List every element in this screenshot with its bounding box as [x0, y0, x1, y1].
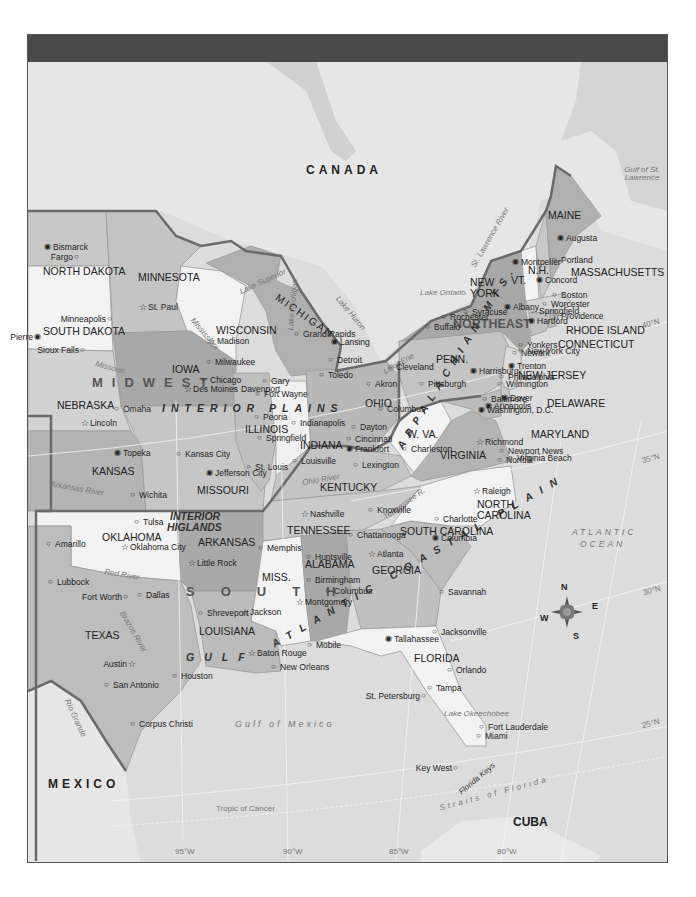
city-marker-city: ○: [48, 578, 53, 586]
state-label-missouri: MISSOURI: [197, 485, 249, 496]
city-label: Raleigh: [482, 487, 511, 496]
city-label: Lincoln: [90, 419, 117, 428]
state-label-florida: FLORIDA: [414, 653, 460, 664]
city-marker-city: ○: [351, 423, 356, 431]
city-marker-city: ○: [306, 553, 311, 561]
city-label: Jacksonville: [441, 628, 487, 637]
city-label: Cleveland: [396, 363, 434, 372]
city-marker-city: ○: [479, 723, 484, 731]
city-marker-city: ○: [134, 518, 139, 526]
city-label: Detroit: [337, 356, 362, 365]
city-marker-city: ○: [328, 356, 333, 364]
state-label-rhode-island: RHODE ISLAND: [566, 325, 645, 336]
city-label: Tallahassee: [394, 635, 439, 644]
water-gulf-of-mexico: Gulf of Mexico: [235, 720, 335, 729]
city-label: Yonkers: [527, 341, 557, 350]
city-label: Wichita: [139, 491, 167, 500]
city-label: Albany: [513, 303, 539, 312]
city-marker-city: ○: [542, 300, 547, 308]
city-marker-city: ○: [104, 681, 109, 689]
water-atlantic-1: ATLANTIC: [572, 528, 636, 537]
city-marker-city: ○: [232, 385, 237, 393]
city-label: Charlotte: [443, 515, 478, 524]
city-marker-city: ○: [198, 609, 203, 617]
coord-lon-95: 95°W: [175, 848, 195, 856]
city-marker-capital: ◉: [331, 338, 338, 346]
region-interior-highlands-1: INTERIOR: [170, 511, 220, 522]
state-label-indiana: INDIANA: [300, 440, 343, 451]
country-cuba: CUBA: [513, 816, 548, 828]
state-label-arkansas: ARKANSAS: [198, 537, 255, 548]
city-label: Montgomery: [305, 598, 352, 607]
city-label: Madison: [217, 337, 249, 346]
city-marker-city: ○: [439, 588, 444, 596]
city-label: Topeka: [123, 449, 150, 458]
city-label: Augusta: [566, 234, 597, 243]
city-label: Kansas City: [185, 450, 230, 459]
city-label: Akron: [375, 380, 397, 389]
city-marker-city: ○: [294, 330, 299, 338]
city-marker-city: ○: [80, 346, 85, 354]
state-label-new-york-2: YORK: [470, 288, 500, 299]
compass-n: N: [561, 583, 568, 592]
city-label: Columbus: [387, 405, 425, 414]
city-marker-capital: ◉: [478, 406, 485, 414]
region-gulf: GULF: [186, 652, 255, 663]
city-label: Sioux Falls: [37, 346, 79, 355]
city-label: Davenport: [241, 385, 280, 394]
tropic-of-cancer: Tropic of Cancer: [216, 805, 275, 813]
city-marker-city: ○: [348, 531, 353, 539]
state-label-georgia: GEORGIA: [372, 565, 421, 576]
country-mexico: MEXICO: [48, 778, 119, 790]
state-label-pennsylvania: PENN.: [436, 354, 468, 365]
city-marker-city: ○: [497, 456, 502, 464]
city-label: Amarillo: [55, 540, 86, 549]
state-label-north-carolina-1: NORTH: [477, 499, 514, 510]
state-label-west-virginia: W. VA.: [407, 429, 438, 440]
city-marker-city: ○: [123, 593, 128, 601]
water-lake-ontario: Lake Ontario: [420, 289, 466, 297]
city-label: Columbus: [334, 587, 372, 596]
city-label: Corpus Christi: [139, 720, 193, 729]
city-label: Peoria: [263, 413, 288, 422]
city-label: Memphis: [267, 544, 301, 553]
city-label: Huntsville: [315, 553, 352, 562]
city-marker-city: ○: [271, 663, 276, 671]
city-label: Tampa: [436, 684, 462, 693]
city-marker-city: ○: [463, 308, 468, 316]
city-marker-capital: ◉: [346, 445, 353, 453]
city-marker-city: ○: [530, 307, 535, 315]
state-label-massachusetts: MASSACHUSETTS: [571, 267, 664, 278]
city-label: Springfield: [266, 434, 306, 443]
city-label: Concord: [545, 276, 577, 285]
city-label: Pittsburgh: [428, 380, 466, 389]
city-marker-city: ○: [453, 764, 458, 772]
city-label: St. Petersburg: [366, 692, 420, 701]
city-label: San Antonio: [113, 681, 159, 690]
state-label-vermont: VT.: [511, 275, 526, 286]
city-marker-city: ○: [130, 491, 135, 499]
city-marker-star: ☆: [139, 303, 147, 312]
city-marker-city: ○: [512, 349, 517, 357]
city-marker-city: ○: [292, 457, 297, 465]
city-marker-city: ○: [291, 419, 296, 427]
city-marker-capital: ◉: [528, 317, 535, 325]
city-marker-city: ○: [74, 253, 79, 261]
city-marker-city: ○: [257, 434, 262, 442]
city-marker-city: ○: [201, 376, 206, 384]
city-label: Houston: [181, 672, 213, 681]
city-marker-city: ○: [176, 450, 181, 458]
city-label: Bismarck: [53, 243, 88, 252]
city-label: Baton Rouge: [257, 649, 307, 658]
state-label-iowa: IOWA: [172, 364, 200, 375]
state-label-texas: TEXAS: [85, 630, 119, 641]
city-marker-city: ○: [107, 315, 112, 323]
city-label: Savannah: [448, 588, 486, 597]
city-marker-city: ○: [353, 461, 358, 469]
city-label: Tulsa: [143, 518, 163, 527]
city-marker-capital: ◉: [536, 276, 543, 284]
city-marker-city: ○: [114, 405, 119, 413]
header-bar: [28, 35, 667, 62]
city-marker-star: ☆: [473, 487, 481, 496]
city-label: Lansing: [340, 338, 370, 347]
